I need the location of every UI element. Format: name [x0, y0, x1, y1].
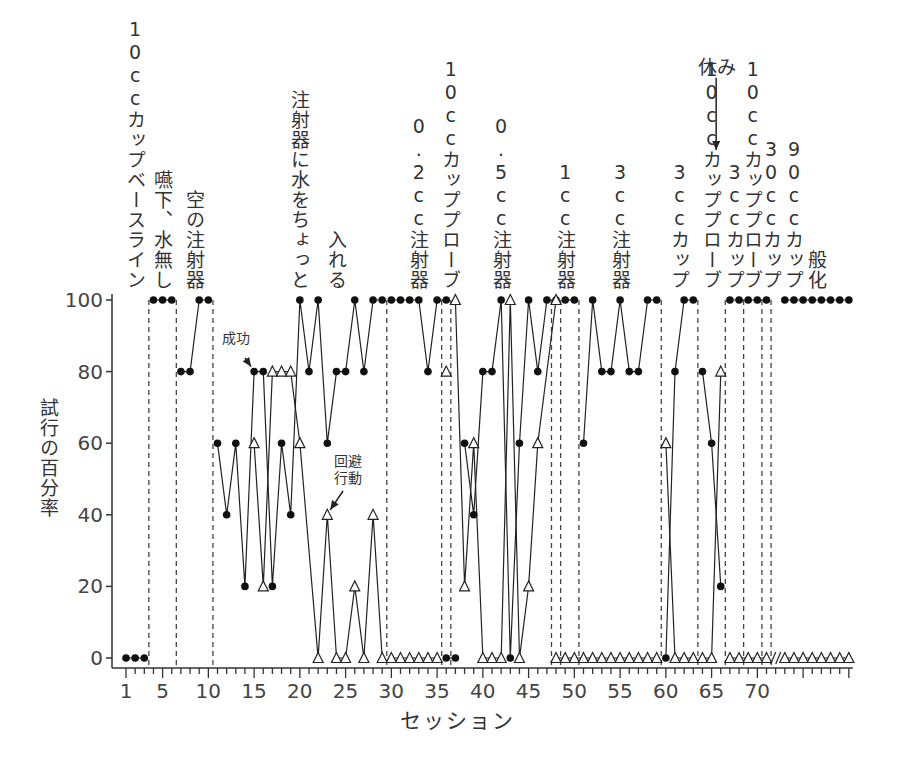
success-point: [141, 654, 149, 662]
success-point: [314, 296, 322, 304]
success-point: [781, 296, 789, 304]
success-point: [287, 511, 295, 519]
phase-label: 嚥下、水無し: [152, 170, 174, 290]
phase-label: 30ccカップ: [760, 138, 782, 290]
success-point: [744, 296, 752, 304]
avoidance-line: [666, 443, 693, 658]
success-point: [735, 296, 743, 304]
avoidance-line: [254, 372, 382, 658]
phase-label: 般化: [806, 250, 828, 290]
success-point: [406, 296, 414, 304]
success-point: [470, 511, 478, 519]
avoidance-point: [295, 438, 305, 448]
phase-label: 3ccカップ: [669, 161, 691, 290]
success-point: [754, 296, 762, 304]
success-point: [214, 439, 222, 447]
avoidance-point: [313, 653, 323, 663]
phase-label: 10ccカップベースライン: [124, 18, 146, 290]
success-point: [415, 296, 423, 304]
phase-label: 0.5cc注射器: [490, 115, 512, 290]
success-point: [131, 654, 139, 662]
avoidance-arrow-head: [330, 500, 338, 510]
success-point: [580, 439, 588, 447]
success-point: [333, 368, 341, 376]
success-point: [159, 296, 167, 304]
x-tick-label: 50: [562, 679, 587, 703]
avoidance-point: [441, 366, 451, 376]
avoidance-point: [661, 438, 671, 448]
success-point: [479, 368, 487, 376]
phase-label: 1cc注射器: [554, 161, 576, 290]
success-point: [561, 296, 569, 304]
avoidance-point: [450, 295, 460, 305]
success-line: [666, 300, 693, 658]
success-point: [269, 583, 277, 591]
phase-label: 注射器に水をちょっと: [289, 90, 311, 290]
x-tick-label: 25: [333, 679, 358, 703]
avoidance-line: [703, 372, 721, 658]
annotation-arrows: [243, 78, 721, 510]
success-point: [177, 368, 185, 376]
x-tick-label: 30: [379, 679, 404, 703]
success-point: [571, 296, 579, 304]
phase-label: 10ccカッププローブ: [701, 58, 723, 290]
success-point: [223, 511, 231, 519]
x-tick-label: 60: [653, 679, 678, 703]
success-point: [232, 439, 240, 447]
success-point: [690, 296, 698, 304]
axes: [112, 294, 853, 668]
y-tick-label: 40: [78, 503, 103, 527]
avoidance-point: [460, 581, 470, 591]
success-point: [488, 368, 496, 376]
success-point: [726, 296, 734, 304]
success-point: [342, 368, 350, 376]
success-point: [168, 296, 176, 304]
success-point: [836, 296, 844, 304]
success-point: [827, 296, 835, 304]
success-point: [378, 296, 386, 304]
success-point: [699, 368, 707, 376]
avoidance-point: [716, 366, 726, 376]
success-point: [790, 296, 798, 304]
success-point: [186, 368, 194, 376]
success-point: [516, 439, 524, 447]
series-lines: [126, 300, 849, 658]
avoidance-point: [377, 653, 387, 663]
success-point: [845, 296, 853, 304]
success-point: [625, 368, 633, 376]
x-tick-label: 45: [516, 679, 541, 703]
success-line: [391, 300, 446, 372]
success-point: [122, 654, 130, 662]
success-point: [369, 296, 377, 304]
y-tick-label: 80: [78, 360, 103, 384]
y-tick-label: 20: [78, 574, 103, 598]
success-point: [680, 296, 688, 304]
success-point: [808, 296, 816, 304]
phase-label: 10ccカッププローブ: [440, 58, 462, 290]
success-point: [662, 654, 670, 662]
avoidance-point: [359, 653, 369, 663]
x-tick-label: 5: [156, 679, 169, 703]
success-point: [324, 439, 332, 447]
x-tick-label: 10: [196, 679, 221, 703]
success-line: [181, 300, 209, 372]
success-point: [543, 296, 551, 304]
phase-label: 入れる: [325, 230, 347, 290]
avoidance-point: [533, 438, 543, 448]
avoidance-point: [469, 438, 479, 448]
success-point: [388, 296, 396, 304]
success-line: [703, 372, 721, 587]
x-tick-label: 35: [424, 679, 449, 703]
success-point: [635, 368, 643, 376]
avoidance-point: [258, 581, 268, 591]
success-point: [799, 296, 807, 304]
success-point: [763, 296, 771, 304]
phase-label: 空の注射器: [184, 190, 206, 290]
success-point: [607, 368, 615, 376]
success-point: [534, 368, 542, 376]
success-point: [278, 439, 286, 447]
avoidance-point: [514, 653, 524, 663]
y-tick-label: 100: [65, 288, 103, 312]
success-point: [717, 583, 725, 591]
success-point: [644, 296, 652, 304]
